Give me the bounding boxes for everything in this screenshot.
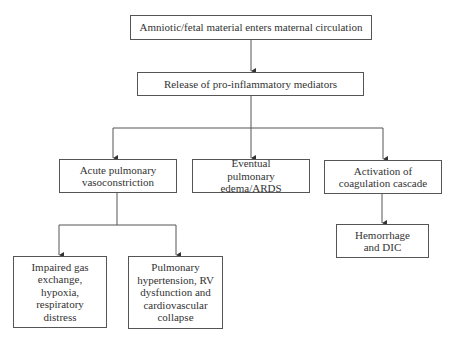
node-label: Acute pulmonary vasoconstriction (78, 164, 158, 189)
node-label: Release of pro-inflammatory mediators (164, 78, 337, 91)
node-label: Activation of coagulation cascade (331, 165, 435, 190)
node-label: Hemorrhage and DIC (349, 229, 416, 254)
node-activation-coagulation-cascade: Activation of coagulation cascade (324, 160, 442, 194)
node-amniotic-material-enters-circulation: Amniotic/fetal material enters maternal … (130, 15, 372, 40)
node-label: Amniotic/fetal material enters maternal … (140, 21, 363, 34)
node-release-pro-inflammatory-mediators: Release of pro-inflammatory mediators (137, 72, 364, 96)
node-label: Pulmonary hypertension, RV dysfunction a… (133, 261, 218, 324)
node-label: Eventual pulmonary edema/ARDS (209, 157, 293, 195)
node-label: Impaired gas exchange, hypoxia, respirat… (20, 261, 100, 324)
node-eventual-pulmonary-edema-ards: Eventual pulmonary edema/ARDS (192, 159, 310, 193)
node-hemorrhage-and-dic: Hemorrhage and DIC (336, 224, 429, 258)
node-pulmonary-hypertension-rv-dysfunction: Pulmonary hypertension, RV dysfunction a… (128, 256, 223, 329)
node-impaired-gas-exchange: Impaired gas exchange, hypoxia, respirat… (13, 256, 107, 328)
node-acute-pulmonary-vasoconstriction: Acute pulmonary vasoconstriction (59, 159, 177, 193)
